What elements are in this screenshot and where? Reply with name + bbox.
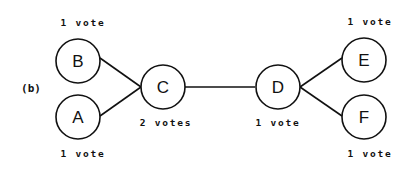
node-c-label: C bbox=[157, 78, 169, 97]
node-d: D bbox=[256, 65, 300, 109]
edge-b-c bbox=[100, 58, 141, 87]
edge-a-c bbox=[100, 87, 141, 116]
node-a: A bbox=[56, 95, 100, 139]
vote-graph-diagram: (b) B 1 vote A 1 vote C 2 votes D 1 vote… bbox=[0, 0, 411, 189]
node-d-label: D bbox=[272, 78, 284, 97]
node-b: B bbox=[56, 39, 100, 83]
node-e: E bbox=[342, 38, 386, 82]
node-a-label: A bbox=[72, 108, 84, 127]
node-d-votes: 1 vote bbox=[255, 117, 300, 128]
node-e-label: E bbox=[358, 51, 369, 70]
node-b-votes: 1 vote bbox=[60, 17, 105, 28]
edge-d-f bbox=[300, 87, 342, 116]
edge-d-e bbox=[300, 58, 342, 87]
node-c-votes: 2 votes bbox=[140, 117, 193, 128]
node-e-votes: 1 vote bbox=[347, 16, 392, 27]
node-b-label: B bbox=[72, 52, 83, 71]
panel-label: (b) bbox=[21, 82, 41, 95]
node-f-label: F bbox=[359, 108, 369, 127]
node-f-votes: 1 vote bbox=[347, 148, 392, 159]
node-a-votes: 1 vote bbox=[60, 148, 105, 159]
node-f: F bbox=[342, 95, 386, 139]
node-c: C bbox=[141, 65, 185, 109]
